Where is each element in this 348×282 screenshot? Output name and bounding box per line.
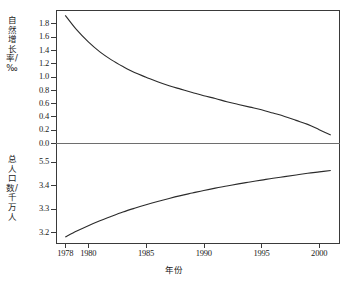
lower-y-axis-title: 总人口数/千万人 (5, 155, 19, 222)
population-growth-chart: 自然增长率/‰ 总人口数/千万人 年份 0.00.20.40.60.81.01.… (0, 0, 348, 282)
natural-growth-rate-curve (65, 15, 331, 135)
y-tick-label: 1.0 (39, 72, 49, 81)
y-tick-label: 0.6 (39, 99, 49, 108)
y-tick-label: 3.2 (39, 228, 49, 237)
y-tick-label: 0.8 (39, 86, 49, 95)
y-tick-label: 0.4 (39, 112, 49, 121)
y-tick-label: 1.2 (39, 59, 49, 68)
x-tick-label: 1980 (80, 249, 96, 258)
y-tick-label: 0.2 (39, 125, 49, 134)
x-tick-label: 1978 (57, 249, 73, 258)
x-tick-label: 1985 (138, 249, 154, 258)
y-tick-label: 0.0 (39, 139, 49, 148)
total-population-curve (65, 170, 331, 236)
upper-y-axis-title: 自然增长率/‰ (5, 16, 19, 74)
y-tick-label: 1.4 (39, 46, 49, 55)
x-tick-label: 2000 (311, 249, 327, 258)
y-tick-label: 3.4 (39, 181, 49, 190)
x-tick-label: 1995 (253, 249, 269, 258)
x-axis-title: 年份 (0, 263, 348, 275)
x-tick-label: 1990 (196, 249, 212, 258)
y-tick-label: 3.3 (39, 204, 49, 213)
curves-layer (56, 10, 340, 244)
y-tick-label: 1.8 (39, 19, 49, 28)
y-tick-label: 1.6 (39, 32, 49, 41)
y-tick-label: 5.5 (39, 157, 49, 166)
